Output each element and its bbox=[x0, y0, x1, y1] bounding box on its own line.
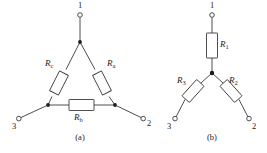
resistor-rb-body[interactable] bbox=[69, 100, 94, 111]
resistor-rc-body[interactable] bbox=[50, 71, 69, 95]
wire-center-to-r3 bbox=[201, 73, 212, 83]
junction-node-center-b bbox=[210, 71, 214, 75]
panel-b-wye-network bbox=[173, 13, 252, 121]
terminal-label-2-b: 2 bbox=[252, 122, 256, 131]
circuit-figure: Rc Ra Rb 1 3 2 (a) R1 R3 R2 1 3 2 (b) bbox=[0, 0, 267, 153]
terminal-circle-1-b[interactable] bbox=[210, 13, 215, 18]
wire-apex-to-rc bbox=[66, 42, 80, 70]
circuit-drawing-canvas bbox=[0, 0, 267, 153]
terminal-circle-3-a[interactable] bbox=[17, 116, 22, 121]
terminal-circle-3-b[interactable] bbox=[173, 116, 178, 121]
panel-a-delta-network bbox=[17, 13, 146, 121]
caption-panel-b: (b) bbox=[196, 133, 228, 142]
wire-apex-to-ra bbox=[80, 42, 95, 70]
lead-wire-terminal-2-a bbox=[115, 105, 141, 118]
terminal-label-2-a: 2 bbox=[147, 119, 151, 128]
resistor-r1-body[interactable] bbox=[207, 33, 218, 58]
wire-r2-to-terminal-2 bbox=[239, 100, 248, 118]
resistor-label-r1: R1 bbox=[220, 40, 229, 49]
wire-r3-to-terminal-3 bbox=[176, 100, 185, 118]
junction-node-apex-a bbox=[78, 40, 82, 44]
terminal-circle-2-a[interactable] bbox=[141, 116, 146, 121]
terminal-circle-2-b[interactable] bbox=[247, 116, 252, 121]
resistor-ra-body[interactable] bbox=[93, 71, 112, 95]
terminal-label-3-a: 3 bbox=[12, 122, 16, 131]
caption-panel-a: (a) bbox=[64, 133, 96, 142]
resistor-label-ra: Ra bbox=[107, 59, 115, 68]
resistor-label-rc: Rc bbox=[45, 59, 53, 68]
resistor-label-r2: R2 bbox=[229, 76, 238, 85]
resistor-label-rb: Rb bbox=[74, 113, 83, 122]
resistor-label-r3: R3 bbox=[177, 76, 186, 85]
terminal-label-3-b: 3 bbox=[167, 122, 171, 131]
terminal-label-1-a: 1 bbox=[78, 1, 82, 10]
terminal-label-1-b: 1 bbox=[210, 1, 214, 10]
wire-center-to-r2 bbox=[212, 73, 223, 83]
lead-wire-terminal-3-a bbox=[21, 105, 48, 118]
terminal-circle-1-a[interactable] bbox=[78, 13, 83, 18]
